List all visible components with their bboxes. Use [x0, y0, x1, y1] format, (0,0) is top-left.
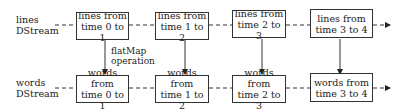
- box-text: time 2 to 3: [233, 89, 285, 111]
- op-text: flatMap: [111, 46, 155, 56]
- words-box-1: words from time 1 to 2: [155, 75, 209, 103]
- flatmap-operation-label: flatMap operation: [111, 46, 155, 66]
- box-text: words from: [311, 77, 372, 88]
- box-text: lines from: [77, 10, 128, 21]
- box-text: time 3 to 4: [311, 88, 372, 99]
- words-dstream-label: words DStream: [16, 77, 59, 99]
- box-text: lines from: [156, 10, 208, 21]
- lines-box-1: lines from time 1 to 2: [155, 12, 209, 40]
- box-text: time 0 to 1: [77, 89, 128, 111]
- box-text: lines from: [233, 8, 285, 19]
- words-box-3: words from time 3 to 4: [310, 73, 373, 102]
- box-text: time 1 to 2: [156, 89, 208, 111]
- box-text: lines from: [311, 13, 372, 24]
- box-text: words from: [156, 67, 208, 89]
- words-box-0: words from time 0 to 1: [76, 75, 129, 103]
- box-text: time 3 to 4: [311, 24, 372, 35]
- box-text: time 1 to 2: [156, 21, 208, 43]
- label-line: lines: [16, 14, 59, 25]
- lines-dstream-label: lines DStream: [16, 14, 59, 36]
- label-line: DStream: [16, 25, 59, 36]
- words-box-2: words from time 2 to 3: [232, 75, 286, 103]
- box-text: words from: [233, 67, 285, 89]
- box-text: time 0 to 1: [77, 21, 128, 43]
- label-line: words: [16, 77, 59, 88]
- lines-box-2: lines from time 2 to 3: [232, 10, 286, 38]
- lines-box-3: lines from time 3 to 4: [310, 9, 373, 38]
- box-text: time 2 to 3: [233, 19, 285, 41]
- lines-box-0: lines from time 0 to 1: [76, 12, 129, 40]
- label-line: DStream: [16, 88, 59, 99]
- op-text: operation: [111, 56, 155, 66]
- box-text: words from: [77, 67, 128, 89]
